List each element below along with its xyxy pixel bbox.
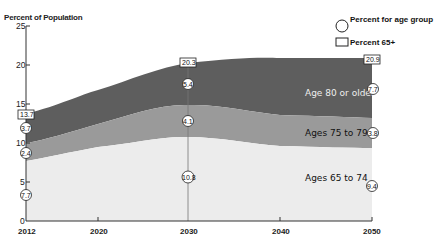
stacked-area-chart: Percent of Population 25 20 15 10 5 0 20… xyxy=(0,0,434,252)
series-label-ages-65-74: Ages 65 to 74 xyxy=(305,173,368,183)
value-80-2012: 3.7 xyxy=(21,125,31,132)
value-75-2012: 2.4 xyxy=(21,150,31,157)
legend-label-65-plus: Percent 65+ xyxy=(350,38,395,47)
y-tick-10: 10 xyxy=(16,138,26,148)
y-tick-20: 20 xyxy=(16,60,26,70)
value-65-2050: 9.4 xyxy=(367,183,377,190)
x-tick-2030: 2030 xyxy=(180,227,198,236)
total-value-2030: 20.3 xyxy=(182,59,196,66)
value-80-2030: 5.4 xyxy=(183,81,193,88)
value-80-2050: 7.7 xyxy=(368,86,378,93)
series-label-ages-75-79: Ages 75 to 79 xyxy=(305,128,368,138)
value-65-2012: 7.7 xyxy=(21,192,31,199)
x-tick-2020: 2020 xyxy=(90,227,108,236)
value-75-2030: 4.1 xyxy=(183,118,193,125)
legend-label-age-group: Percent for age group xyxy=(350,15,433,24)
y-tick-25: 25 xyxy=(16,21,26,31)
x-tick-2050: 2050 xyxy=(363,227,381,236)
total-value-2050: 20.9 xyxy=(366,56,380,63)
total-value-2012: 13.7 xyxy=(20,111,34,118)
y-tick-15: 15 xyxy=(16,99,26,109)
x-tick-2040: 2040 xyxy=(272,227,290,236)
series-label-age-80-plus: Age 80 or older xyxy=(305,88,375,98)
legend-circle-icon xyxy=(336,20,348,32)
y-tick-5: 5 xyxy=(20,177,25,187)
value-65-2030: 10.8 xyxy=(182,174,196,181)
y-tick-0: 0 xyxy=(20,216,25,226)
x-tick-2012: 2012 xyxy=(18,227,36,236)
value-75-2050: 3.8 xyxy=(368,130,378,137)
legend-square-icon xyxy=(336,38,348,46)
